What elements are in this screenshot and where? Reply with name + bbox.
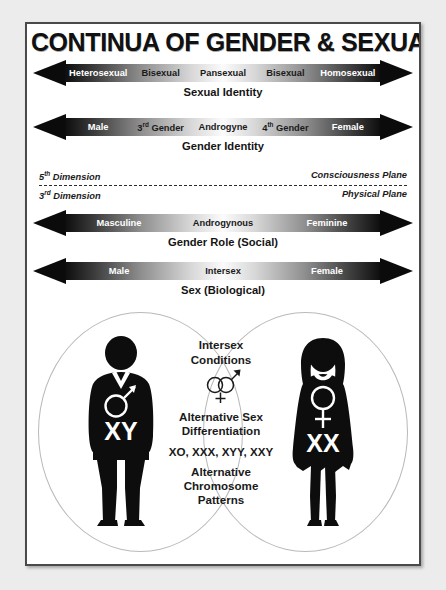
arrow-left-icon bbox=[33, 114, 66, 140]
continuum-gender-identity: Male 3rd Gender Androgyne 4th Gender Fem… bbox=[33, 116, 413, 152]
continuum-label: Androgynous bbox=[171, 218, 275, 228]
arrow-left-icon bbox=[33, 210, 66, 236]
continuum-caption: Gender Role (Social) bbox=[33, 236, 413, 248]
continuum-gender-role: Masculine Androgynous Feminine Gender Ro… bbox=[33, 212, 413, 248]
female-chromosome-label: XX bbox=[306, 429, 340, 457]
dimension-label-upper: 5th Dimension bbox=[39, 170, 100, 182]
arrow-right-icon bbox=[380, 210, 413, 236]
continuum-arrow: Heterosexual Bisexual Pansexual Bisexual… bbox=[33, 62, 413, 84]
venn-diagram: XY bbox=[27, 310, 419, 566]
continuum-arrow: Male 3rd Gender Androgyne 4th Gender Fem… bbox=[33, 116, 413, 138]
continuum-label: Male bbox=[67, 122, 129, 132]
page-title: CONTINUA OF GENDER & SEXUAL IDENTITY bbox=[31, 28, 415, 57]
continuum-sexual-identity: Heterosexual Bisexual Pansexual Bisexual… bbox=[33, 62, 413, 98]
female-figure: XX bbox=[281, 336, 365, 526]
continuum-sex-biological: Male Intersex Female Sex (Biological) bbox=[33, 260, 413, 296]
continuum-label: Homosexual bbox=[317, 68, 379, 78]
continuum-caption: Sex (Biological) bbox=[33, 284, 413, 296]
male-chromosome-label: XY bbox=[104, 417, 138, 445]
arrow-left-icon bbox=[33, 258, 66, 284]
alt-sex-line1: Alternative Sex bbox=[150, 410, 292, 424]
continuum-label: Bisexual bbox=[254, 68, 316, 78]
continuum-label: Female bbox=[275, 266, 379, 276]
continuum-label: Pansexual bbox=[192, 68, 254, 78]
dimension-label-lower: 3rd Dimension bbox=[39, 189, 101, 201]
chromosome-list: XO, XXX, XYY, XXY bbox=[150, 445, 292, 460]
venn-center-text: Intersex Conditions Alternative Sex Diff… bbox=[150, 338, 292, 507]
alt-chromosome-line2: Chromosome bbox=[150, 479, 292, 493]
arrow-right-icon bbox=[380, 114, 413, 140]
plane-divider: 5th Dimension Consciousness Plane 3rd Di… bbox=[39, 170, 407, 202]
plane-row-upper: 5th Dimension Consciousness Plane bbox=[39, 170, 407, 183]
plane-row-lower: 3rd Dimension Physical Plane bbox=[39, 189, 407, 202]
continuum-arrow: Masculine Androgynous Feminine bbox=[33, 212, 413, 234]
continuum-labels: Masculine Androgynous Feminine bbox=[67, 215, 379, 231]
continuum-arrow: Male Intersex Female bbox=[33, 260, 413, 282]
dashed-separator bbox=[39, 185, 407, 186]
female-figure-svg: XX bbox=[281, 336, 365, 526]
intersex-heading-line1: Intersex bbox=[150, 338, 292, 353]
continuum-label: 3rd Gender bbox=[129, 121, 191, 133]
continuum-label: Male bbox=[67, 266, 171, 276]
continuum-label: 4th Gender bbox=[254, 121, 316, 133]
arrow-right-icon bbox=[380, 60, 413, 86]
continuum-label: Masculine bbox=[67, 218, 171, 228]
poster-frame: CONTINUA OF GENDER & SEXUAL IDENTITY Het… bbox=[25, 22, 421, 566]
continuum-label: Androgyne bbox=[192, 122, 254, 132]
continuum-label: Feminine bbox=[275, 218, 379, 228]
alt-sex-line2: Differentiation bbox=[150, 424, 292, 438]
continuum-labels: Male 3rd Gender Androgyne 4th Gender Fem… bbox=[67, 119, 379, 135]
alt-chromosome-line1: Alternative bbox=[150, 465, 292, 479]
plane-label-lower: Physical Plane bbox=[342, 189, 407, 199]
continuum-label: Bisexual bbox=[129, 68, 191, 78]
continuum-labels: Heterosexual Bisexual Pansexual Bisexual… bbox=[67, 65, 379, 81]
arrow-left-icon bbox=[33, 60, 66, 86]
continuum-caption: Sexual Identity bbox=[33, 86, 413, 98]
continuum-label: Intersex bbox=[171, 266, 275, 276]
continuum-caption: Gender Identity bbox=[33, 140, 413, 152]
continuum-labels: Male Intersex Female bbox=[67, 263, 379, 279]
arrow-right-icon bbox=[380, 258, 413, 284]
continuum-label: Female bbox=[317, 122, 379, 132]
intersex-symbol-icon bbox=[150, 368, 292, 406]
spacer bbox=[150, 438, 292, 445]
continuum-label: Heterosexual bbox=[67, 68, 129, 78]
alt-chromosome-line3: Patterns bbox=[150, 493, 292, 507]
intersex-heading-line2: Conditions bbox=[150, 353, 292, 368]
plane-label-upper: Consciousness Plane bbox=[311, 170, 407, 180]
